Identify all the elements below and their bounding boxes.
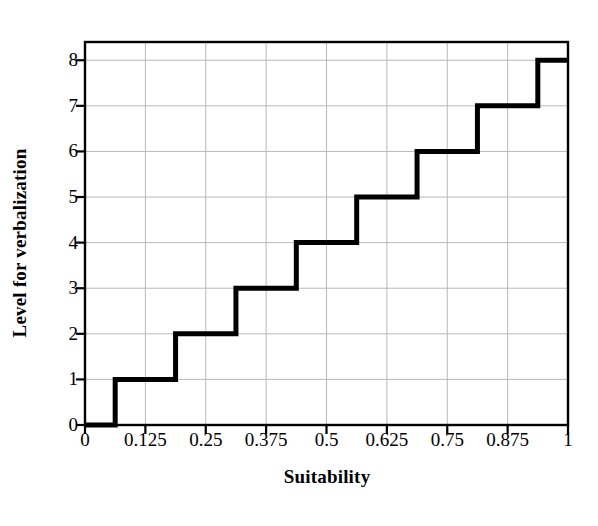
- y-tick-label: 2: [44, 324, 78, 343]
- x-tick-label: 1: [523, 430, 598, 449]
- y-tick-label: 3: [44, 278, 78, 297]
- y-axis-title: Level for verbalization: [9, 83, 31, 403]
- chart-figure: Level for verbalization Suitability 0123…: [0, 0, 598, 526]
- y-tick-label: 6: [44, 141, 78, 160]
- x-axis-title: Suitability: [85, 466, 569, 488]
- y-tick-label: 1: [44, 369, 78, 388]
- grid-lines: [85, 42, 568, 425]
- y-tick-label: 8: [44, 50, 78, 69]
- y-tick-label: 7: [44, 96, 78, 115]
- y-tick-label: 4: [44, 233, 78, 252]
- y-tick-label: 5: [44, 187, 78, 206]
